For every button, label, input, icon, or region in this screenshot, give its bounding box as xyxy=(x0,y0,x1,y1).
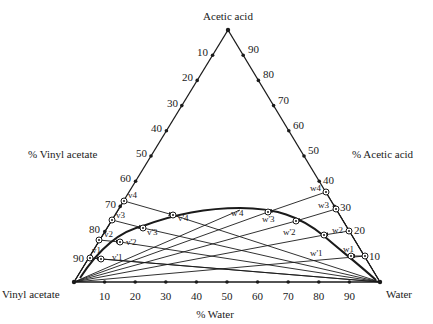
svg-text:v'1: v'1 xyxy=(112,252,123,262)
svg-text:v3: v3 xyxy=(116,210,126,220)
svg-text:50: 50 xyxy=(308,144,320,156)
svg-text:v'3: v'3 xyxy=(147,227,158,237)
svg-text:w'4: w'4 xyxy=(231,208,244,218)
svg-text:80: 80 xyxy=(263,68,275,80)
svg-text:10: 10 xyxy=(99,290,111,302)
axis-title-left: % Vinyl acetate xyxy=(28,148,98,160)
svg-text:50: 50 xyxy=(222,290,234,302)
svg-text:30: 30 xyxy=(167,97,179,109)
svg-text:w'3: w'3 xyxy=(262,214,275,224)
vertex-label-bottom-right: Water xyxy=(386,288,412,300)
svg-text:w'1: w'1 xyxy=(310,248,323,258)
svg-text:60: 60 xyxy=(252,290,264,302)
svg-text:v2: v2 xyxy=(104,229,113,239)
svg-text:20: 20 xyxy=(130,290,142,302)
vertex-label-bottom-left: Vinyl acetate xyxy=(2,288,60,300)
svg-text:20: 20 xyxy=(182,71,194,83)
svg-text:v4: v4 xyxy=(128,190,138,200)
svg-text:w2: w2 xyxy=(332,225,343,235)
bottom-tick-labels: 10 20 30 40 50 60 70 80 90 xyxy=(99,290,355,302)
axis-title-right: % Acetic acid xyxy=(352,148,414,160)
svg-text:60: 60 xyxy=(293,119,305,131)
point-labels: v4 v3 v2 v1 v'1 v'2 v'3 v'4 w'4 w'3 w'2 … xyxy=(92,183,354,262)
svg-text:30: 30 xyxy=(340,201,352,213)
svg-text:80: 80 xyxy=(313,290,325,302)
svg-text:v'2: v'2 xyxy=(126,237,137,247)
vertex-label-top: Acetic acid xyxy=(203,10,253,22)
svg-text:w3: w3 xyxy=(318,200,329,210)
svg-text:30: 30 xyxy=(160,290,172,302)
svg-text:20: 20 xyxy=(354,224,366,236)
svg-text:50: 50 xyxy=(136,147,148,159)
svg-text:w4: w4 xyxy=(310,183,321,193)
svg-text:10: 10 xyxy=(197,46,209,58)
svg-text:40: 40 xyxy=(323,174,335,186)
ternary-diagram: Acetic acid Vinyl acetate Water % Vinyl … xyxy=(0,0,433,324)
svg-text:90: 90 xyxy=(248,43,260,55)
svg-text:70: 70 xyxy=(105,198,117,210)
svg-text:80: 80 xyxy=(89,223,101,235)
svg-text:w1: w1 xyxy=(343,244,354,254)
svg-text:10: 10 xyxy=(369,250,381,262)
svg-text:90: 90 xyxy=(344,290,356,302)
axis-title-bottom: % Water xyxy=(196,308,234,320)
svg-text:90: 90 xyxy=(73,252,85,264)
svg-text:w'2: w'2 xyxy=(283,227,296,237)
svg-text:v'4: v'4 xyxy=(178,213,189,223)
svg-text:70: 70 xyxy=(278,94,290,106)
svg-text:40: 40 xyxy=(151,122,163,134)
svg-text:40: 40 xyxy=(191,290,203,302)
svg-text:60: 60 xyxy=(120,172,132,184)
svg-text:70: 70 xyxy=(283,290,295,302)
svg-text:v1: v1 xyxy=(92,245,101,255)
